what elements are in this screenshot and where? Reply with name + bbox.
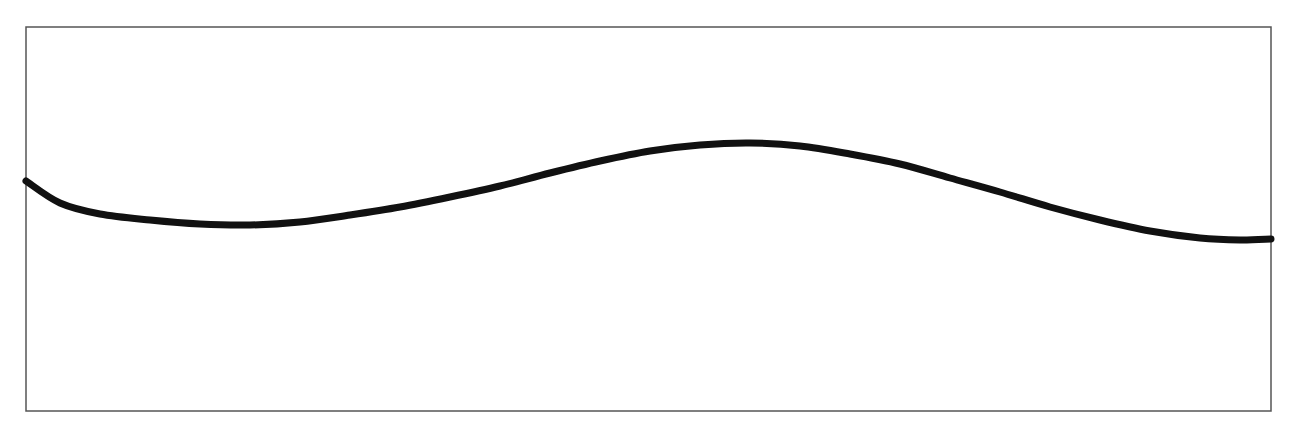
data-line: [26, 143, 1271, 240]
line-chart: [0, 0, 1297, 434]
